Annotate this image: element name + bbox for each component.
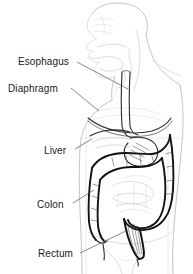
esophagus-organ bbox=[121, 71, 138, 139]
colon-leader-line bbox=[73, 190, 94, 203]
label-esophagus: Esophagus bbox=[18, 56, 69, 67]
diaphragm-leader-line bbox=[71, 88, 99, 111]
label-colon: Colon bbox=[37, 199, 64, 210]
labels-group: Esophagus Diaphragm Liver Colon Rectum bbox=[8, 56, 73, 259]
label-liver: Liver bbox=[44, 145, 67, 156]
diagram-canvas: Esophagus Diaphragm Liver Colon Rectum bbox=[0, 0, 193, 274]
small-intestine-organ bbox=[112, 176, 153, 214]
stomach-organ bbox=[124, 137, 158, 166]
liver-leader-line bbox=[75, 139, 92, 149]
label-diaphragm: Diaphragm bbox=[8, 83, 58, 94]
colon-organ bbox=[89, 135, 174, 260]
digestive-tract-diagram: Esophagus Diaphragm Liver Colon Rectum bbox=[0, 0, 193, 274]
esophagus-leader-line bbox=[77, 62, 128, 89]
label-rectum: Rectum bbox=[38, 248, 73, 259]
